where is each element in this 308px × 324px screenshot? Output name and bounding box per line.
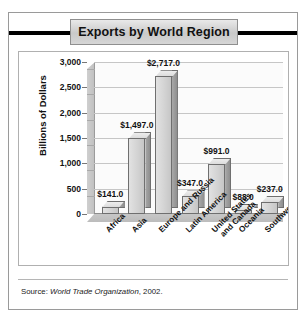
gridline	[94, 62, 283, 63]
chart-title-banner: Exports by World Region	[70, 19, 238, 45]
y-tick-label: 3,000	[47, 57, 81, 67]
gridline	[94, 87, 283, 88]
bar-side-face	[225, 158, 231, 208]
bar-value-label: $237.0	[257, 184, 283, 194]
chart-figure: Exports by World Region Billions of Doll…	[8, 12, 298, 310]
gridline-side	[87, 94, 95, 95]
x-axis-labels: AfricaAsiaEurope and RussiaLatin America…	[87, 228, 287, 266]
gridline-side	[87, 145, 95, 146]
gridline	[94, 163, 283, 164]
bar[interactable]: $2,717.0	[155, 76, 172, 214]
source-prefix: Source:	[21, 287, 48, 296]
plot-area: $141.0$1,497.0$2,717.0$347.0$991.0$88.0$…	[87, 62, 283, 214]
y-tick-label: 2,000	[47, 108, 81, 118]
footnote-divider	[18, 279, 288, 280]
bar-front-face	[128, 138, 145, 214]
source-year: , 2002.	[139, 287, 163, 296]
chart-title: Exports by World Region	[78, 25, 229, 39]
y-tick-label: 1,500	[47, 133, 81, 143]
gridline	[94, 113, 283, 114]
y-axis-ticks: 05001,0001,5002,0002,5003,000	[45, 52, 81, 266]
bar-front-face	[102, 207, 119, 214]
gridline-side	[87, 69, 95, 70]
bar[interactable]: $141.0	[102, 207, 119, 214]
y-tick-label: 2,500	[47, 82, 81, 92]
gridline-side	[87, 196, 95, 197]
gridline	[94, 138, 283, 139]
bar-front-face	[155, 76, 172, 214]
source-organization: World Trade Organization	[50, 287, 139, 296]
bar-value-label: $1,497.0	[120, 120, 153, 130]
bar-value-label: $991.0	[204, 146, 230, 156]
gridline-side	[87, 170, 95, 171]
y-tick-label: 0	[47, 209, 81, 219]
plot-frame: Billions of Dollars 05001,0001,5002,0002…	[18, 51, 289, 266]
y-tick-label: 1,000	[47, 158, 81, 168]
y-tick-label: 500	[47, 184, 81, 194]
bar-side-face	[145, 132, 151, 208]
bar-value-label: $2,717.0	[147, 58, 180, 68]
source-note: Source: World Trade Organization, 2002.	[21, 287, 163, 296]
y-tick-mark	[82, 214, 87, 215]
bar-value-label: $141.0	[97, 189, 123, 199]
gridline-side	[87, 120, 95, 121]
bar[interactable]: $1,497.0	[128, 138, 145, 214]
